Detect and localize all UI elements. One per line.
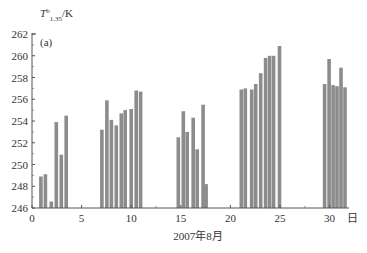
bar: [204, 184, 208, 208]
bar: [115, 125, 119, 208]
x-tick-label: 20: [225, 212, 237, 224]
y-tick-label: 246: [12, 202, 29, 214]
bar: [254, 84, 258, 208]
axes: [32, 33, 349, 208]
bar: [244, 88, 248, 208]
bar: [100, 130, 104, 208]
y-tick-label: 250: [12, 159, 29, 171]
bar: [110, 120, 114, 208]
bar: [139, 92, 143, 208]
bar: [268, 56, 272, 208]
bar: [327, 59, 331, 208]
y-tick-label: 258: [12, 72, 29, 84]
x-tick-label: 15: [175, 212, 187, 224]
bar: [182, 111, 186, 208]
x-tick-label: 10: [126, 212, 138, 224]
y-tick-label: 252: [12, 137, 29, 149]
bar: [50, 202, 54, 209]
bar: [123, 110, 127, 208]
bar: [331, 85, 335, 208]
bar: [339, 68, 343, 208]
y-tick-label: 262: [12, 28, 29, 40]
bar: [343, 87, 347, 208]
bar: [55, 122, 59, 208]
bar: [60, 155, 64, 208]
bar-chart: Tb1.35/K (a) 051015202530日 2462482502522…: [0, 0, 367, 253]
bar: [39, 177, 43, 209]
y-tick-label: 254: [12, 115, 29, 127]
x-tick-label: 30: [324, 212, 336, 224]
x-axis-title: 2007年8月: [173, 229, 223, 242]
x-tick-label: 5: [79, 212, 85, 224]
bar: [335, 86, 339, 208]
bar: [264, 58, 268, 208]
bar: [259, 73, 263, 208]
x-unit-label: 日: [347, 212, 358, 224]
x-tick-label: 0: [29, 212, 35, 224]
bar: [195, 149, 199, 208]
bar: [185, 132, 189, 208]
svg-text:Tb1.35/K: Tb1.35/K: [40, 7, 73, 23]
bar: [323, 84, 327, 208]
bar: [134, 91, 138, 209]
y-axis-ticks: 246248250252254256258260262: [12, 28, 36, 214]
bar: [240, 90, 244, 209]
bar: [177, 137, 181, 208]
bar: [44, 174, 48, 208]
x-tick-label: 25: [275, 212, 287, 224]
bars-group: [39, 46, 347, 208]
bar: [191, 118, 195, 208]
panel-label: (a): [40, 36, 53, 49]
bar: [272, 56, 276, 208]
svg-text:2007年8月: 2007年8月: [173, 229, 223, 242]
bar: [64, 116, 68, 208]
y-axis-title: Tb1.35/K: [40, 7, 73, 23]
y-tick-label: 256: [12, 93, 29, 105]
y-tick-label: 248: [12, 180, 29, 192]
bar: [250, 90, 254, 209]
svg-text:(a): (a): [40, 36, 53, 49]
bar: [278, 46, 282, 208]
bar: [120, 113, 124, 208]
bar: [105, 100, 109, 208]
y-tick-label: 260: [12, 50, 29, 62]
bar: [129, 109, 133, 208]
